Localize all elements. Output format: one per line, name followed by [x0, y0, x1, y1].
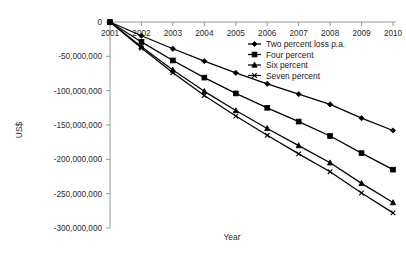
data-point-diamond: [233, 70, 238, 75]
y-tick-label: -100,000,000: [54, 87, 103, 96]
data-point-square: [233, 91, 238, 96]
series-cross: [108, 20, 396, 215]
legend-item[interactable]: Two percent loss p.a.: [248, 39, 345, 49]
data-point-triangle: [202, 88, 207, 93]
chart-legend: Two percent loss p.a.Four percentSix per…: [248, 39, 345, 81]
x-tick-label: 2010: [384, 29, 403, 38]
series-layer: [107, 19, 395, 215]
legend-item[interactable]: Seven percent: [248, 71, 321, 81]
legend-label: Six percent: [266, 60, 309, 70]
data-point-diamond: [296, 92, 301, 97]
x-tick-label: 2003: [164, 29, 183, 38]
data-point-diamond: [390, 128, 395, 133]
y-axis-tick-labels: 0-50,000,000-100,000,000-150,000,000-200…: [54, 18, 103, 233]
y-tick-label: 0: [97, 18, 102, 27]
data-point-cross: [391, 211, 396, 216]
line-chart: 0-50,000,000-100,000,000-150,000,000-200…: [0, 0, 406, 264]
data-point-cross: [265, 133, 270, 138]
data-point-cross: [359, 191, 364, 196]
data-point-diamond: [265, 81, 270, 86]
legend-item[interactable]: Six percent: [248, 60, 309, 70]
data-point-square: [202, 75, 207, 80]
data-point-diamond: [170, 46, 175, 51]
data-point-cross: [328, 169, 333, 174]
y-axis-ticks: [106, 22, 110, 228]
y-tick-label: -200,000,000: [54, 155, 103, 164]
chart-container: 0-50,000,000-100,000,000-150,000,000-200…: [0, 0, 406, 264]
data-point-square: [252, 52, 257, 57]
legend-label: Four percent: [266, 50, 314, 60]
y-tick-label: -50,000,000: [58, 52, 102, 61]
x-tick-label: 2007: [290, 29, 309, 38]
legend-item[interactable]: Four percent: [248, 50, 314, 60]
data-point-square: [170, 58, 175, 63]
x-tick-label: 2001: [101, 29, 120, 38]
x-tick-label: 2006: [258, 29, 277, 38]
data-point-square: [296, 119, 301, 124]
data-point-cross: [233, 114, 238, 119]
x-tick-label: 2009: [352, 29, 371, 38]
series-line: [110, 22, 393, 213]
data-point-triangle: [390, 200, 395, 205]
data-point-triangle: [233, 108, 238, 113]
y-axis: 0-50,000,000-100,000,000-150,000,000-200…: [14, 18, 110, 233]
data-point-square: [391, 167, 396, 172]
legend-label: Seven percent: [266, 71, 321, 81]
data-point-diamond: [359, 116, 364, 121]
x-axis-tick-labels: 2001200220032004200520062007200820092010: [101, 29, 403, 38]
x-tick-label: 2005: [227, 29, 246, 38]
data-point-diamond: [328, 102, 333, 107]
data-point-square: [359, 151, 364, 156]
data-point-triangle: [359, 180, 364, 185]
y-tick-label: -250,000,000: [54, 190, 103, 199]
x-axis-ticks: [110, 22, 393, 26]
y-tick-label: -150,000,000: [54, 121, 103, 130]
data-point-diamond: [252, 41, 257, 46]
data-point-square: [265, 105, 270, 110]
series-square: [108, 20, 396, 172]
legend-label: Two percent loss p.a.: [266, 39, 345, 49]
data-point-diamond: [202, 59, 207, 64]
data-point-cross: [296, 152, 301, 157]
data-point-square: [328, 134, 333, 139]
x-tick-label: 2004: [195, 29, 214, 38]
x-axis-title: Year: [224, 232, 241, 242]
y-axis-title: US$: [14, 122, 24, 139]
y-tick-label: -300,000,000: [54, 224, 103, 233]
series-line: [110, 22, 393, 130]
x-tick-label: 2008: [321, 29, 340, 38]
